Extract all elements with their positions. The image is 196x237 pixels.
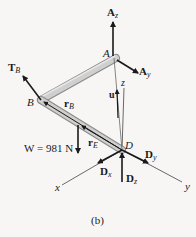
label-u: u (109, 90, 115, 100)
label-point-A: A (103, 48, 110, 59)
label-Dz: Dz (126, 173, 137, 184)
label-Ay: Ay (139, 66, 151, 77)
label-point-B: B (27, 97, 34, 108)
label-y-axis: y (185, 181, 190, 192)
rod-ab (41, 56, 116, 100)
u-vector (117, 90, 118, 118)
Ay-arrow (117, 60, 138, 73)
label-point-D: D (125, 140, 133, 151)
label-Dx: Dx (100, 166, 112, 177)
diagram-graphics (0, 0, 196, 237)
label-TB: TB (8, 62, 20, 73)
label-weight: W = 981 N (24, 143, 73, 154)
label-rB: rB (64, 98, 74, 109)
Dx-arrow (98, 150, 122, 163)
label-Az: Az (107, 7, 118, 18)
label-z-axis: z (121, 78, 125, 88)
label-x-axis: x (55, 182, 60, 193)
z-axis (122, 88, 124, 150)
label-Dy: Dy (145, 149, 157, 160)
free-body-diagram: Az A Ay z u TB B rB rE W = 981 N D Dy Dx… (0, 0, 196, 237)
label-rE: rE (88, 137, 98, 148)
figure-caption: (b) (91, 215, 104, 226)
